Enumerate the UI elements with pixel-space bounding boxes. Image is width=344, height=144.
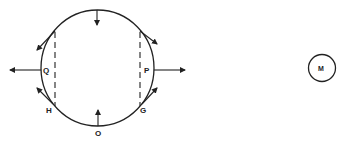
label-q: Q <box>43 66 49 75</box>
label-o: O <box>95 129 101 138</box>
label-m: M <box>318 65 324 72</box>
upper-left-tangent-arrow <box>37 31 55 50</box>
label-h: H <box>46 106 52 115</box>
label-g: G <box>140 106 146 115</box>
main-circle <box>41 10 154 126</box>
label-p: P <box>144 66 150 75</box>
circular-motion-diagram: Q P H G O M <box>0 0 344 144</box>
